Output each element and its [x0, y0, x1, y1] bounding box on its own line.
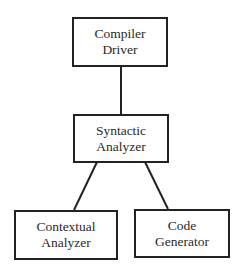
- node-code-generator: Code Generator: [134, 209, 230, 258]
- node-syntactic-analyzer: Syntactic Analyzer: [73, 114, 169, 163]
- diagram-canvas: Compiler Driver Syntactic Analyzer Conte…: [0, 0, 242, 271]
- node-compiler-driver: Compiler Driver: [72, 17, 168, 67]
- node-label-line2: Generator: [155, 234, 209, 250]
- node-label-line1: Contextual: [36, 219, 95, 235]
- node-label-line2: Analyzer: [96, 139, 145, 155]
- node-contextual-analyzer: Contextual Analyzer: [14, 210, 118, 260]
- node-label-line1: Compiler: [95, 26, 146, 42]
- node-label-line2: Analyzer: [41, 235, 90, 251]
- node-label-line1: Code: [168, 218, 197, 234]
- edge-syntactic-analyzer-to-contextual-analyzer: [74, 162, 97, 210]
- node-label-line1: Syntactic: [96, 123, 146, 139]
- edge-syntactic-analyzer-to-code-generator: [145, 162, 168, 209]
- node-label-line2: Driver: [102, 42, 137, 58]
